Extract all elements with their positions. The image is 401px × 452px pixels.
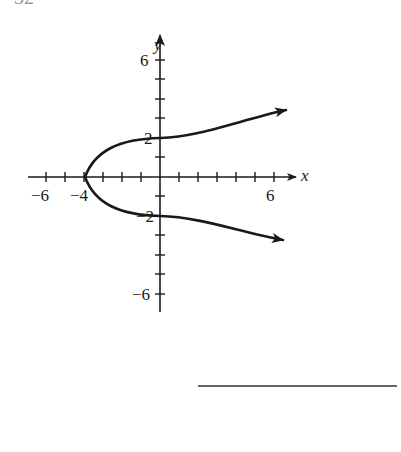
x-axis: −6 −4 6 x [28, 166, 309, 205]
x-tick-label: −4 [70, 186, 89, 205]
y-tick-label: −6 [132, 285, 150, 304]
x-tick-label: 6 [266, 186, 275, 205]
y-tick-label: 6 [140, 51, 149, 70]
problem-number-partial: 32 [14, 0, 34, 8]
parabola-curve [85, 110, 286, 240]
x-tick-label: −6 [31, 186, 49, 205]
y-axis-label: y [152, 35, 162, 54]
graph-figure: 32 −6 −4 6 x [0, 0, 401, 452]
y-axis: y 6 2 −2 −6 [132, 35, 165, 312]
x-axis-label: x [300, 166, 309, 185]
